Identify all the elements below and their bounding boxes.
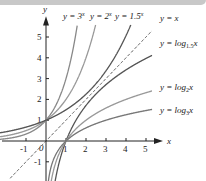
y-axis-arrow-icon (43, 16, 49, 25)
series-label: y = 1.5x (114, 11, 144, 21)
x-tick-label: 2 (83, 144, 88, 154)
x-tick-label: -1 (20, 144, 28, 154)
series-label: y = log1.5x (159, 38, 198, 49)
y-tick-label: 5 (37, 32, 42, 42)
curve-log2x (51, 91, 152, 181)
y-axis-label: y (42, 4, 47, 14)
y-tick-label: 3 (37, 74, 42, 84)
x-tick-label: 4 (123, 144, 128, 154)
series-label: y = log2x (159, 82, 193, 93)
x-tick-label: 3 (103, 144, 108, 154)
x-axis-arrow-icon (154, 138, 163, 144)
curve-x (10, 31, 152, 179)
y-tick-label: 2 (37, 94, 42, 104)
series-label: y = 2x (89, 11, 112, 21)
series-label: y = x (159, 13, 179, 23)
series-label: y = 3x (62, 11, 85, 21)
y-tick-label: -1 (34, 157, 42, 167)
chart-plot: xy-112345-1123450y = 3xy = 2xy = 1.5xy =… (0, 0, 206, 181)
x-axis-label: x (166, 136, 171, 146)
y-tick-label: 4 (37, 53, 42, 63)
series-label: y = log3x (159, 105, 193, 116)
x-tick-label: 5 (143, 144, 148, 154)
